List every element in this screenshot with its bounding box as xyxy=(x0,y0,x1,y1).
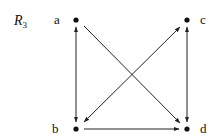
digraph-canvas: R3 a b c d xyxy=(0,0,217,139)
edges xyxy=(76,26,187,129)
node-b-label: b xyxy=(52,121,59,136)
relation-digraph: R3 a b c d xyxy=(0,0,217,139)
node-b-dot xyxy=(73,126,78,131)
node-a-dot xyxy=(73,17,78,22)
node-c-label: c xyxy=(200,12,206,27)
node-d-label: d xyxy=(200,121,207,136)
node-c-dot xyxy=(184,17,189,22)
node-d-dot xyxy=(184,126,189,131)
relation-title: R3 xyxy=(13,13,28,30)
node-a-label: a xyxy=(54,12,60,27)
